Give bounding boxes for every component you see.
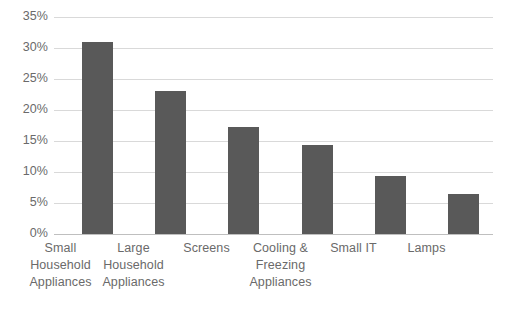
bar [155,91,186,234]
x-axis-tick-label-line: Small [24,240,97,257]
x-axis-tick-label: Screens [170,240,243,257]
x-axis-tick-label: SmallHouseholdAppliances [24,240,97,291]
x-axis-tick-label: Cooling &FreezingAppliances [244,240,317,291]
x-axis-tick-label-line: Appliances [97,274,170,291]
x-axis-tick-label-line: Freezing [244,257,317,274]
x-axis-tick-label-line: Household [97,257,170,274]
x-axis-tick-label-line: Lamps [390,240,463,257]
x-axis-tick-label-line: Appliances [244,274,317,291]
y-axis-tick-label: 15% [0,134,48,147]
x-axis-tick-label: LargeHouseholdAppliances [97,240,170,291]
x-axis-tick-label-line: Household [24,257,97,274]
y-axis-tick-label: 30% [0,41,48,54]
gridline-0pct [54,234,493,235]
x-axis-tick-label: Small IT [317,240,390,257]
x-axis-tick-label-line: Screens [170,240,243,257]
y-axis-tick-label: 5% [0,196,48,209]
x-axis-tick-label-line: Appliances [24,274,97,291]
y-axis-tick-label: 20% [0,103,48,116]
x-axis-tick-label-line: Large [97,240,170,257]
y-axis-tick-label: 35% [0,10,48,23]
bars-layer [54,17,493,234]
x-axis-tick-label-line: Cooling & [244,240,317,257]
bar [448,194,479,234]
x-axis-tick-label: Lamps [390,240,463,257]
bar-chart: 35%30%25%20%15%10%5%0% SmallHouseholdApp… [0,0,506,311]
bar [375,176,406,234]
bar [302,145,333,234]
y-axis-tick-label: 25% [0,72,48,85]
bar [82,42,113,234]
y-axis-tick-label: 10% [0,165,48,178]
y-axis-tick-label: 0% [0,227,48,240]
bar [228,127,259,234]
x-axis-tick-label-line: Small IT [317,240,390,257]
x-axis: SmallHouseholdAppliancesLargeHouseholdAp… [54,240,493,310]
